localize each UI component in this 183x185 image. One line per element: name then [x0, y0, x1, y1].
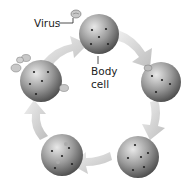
- arrow-2-to-3: [142, 100, 165, 140]
- arrow-1-to-2: [116, 30, 152, 68]
- cell-replicating: [41, 134, 83, 176]
- virus-label: Virus: [34, 17, 60, 29]
- virus-particle: [71, 10, 81, 18]
- cell-virus-inside: [117, 136, 159, 178]
- virus-cycle-diagram: Virus Body cell: [0, 0, 183, 185]
- body-cell-label-line1: Body: [91, 65, 118, 77]
- body-cell-label-line2: cell: [91, 78, 109, 90]
- cell-virus-attached: [141, 62, 181, 102]
- body-cell-top: [79, 14, 119, 54]
- arrow-4-to-5: [24, 100, 48, 140]
- cell-releasing-viruses: [11, 55, 69, 103]
- virus-pointer-line: [59, 18, 73, 23]
